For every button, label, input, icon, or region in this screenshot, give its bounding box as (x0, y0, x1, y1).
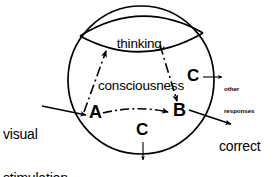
node-c-right-label: C (187, 67, 199, 85)
visual-stimulation-line2: stimulation (3, 171, 68, 177)
node-b-label: B (173, 101, 186, 120)
visual-stimulation-line1: visual (3, 127, 68, 142)
thinking-label-line1: thinking, (86, 37, 196, 51)
other-responses-bottom-label: other responses (125, 162, 156, 177)
correct-response-line1: correct (219, 139, 275, 154)
node-c-bottom-label: C (136, 121, 148, 139)
visual-stimulation-label: visual stimulation (3, 98, 68, 177)
diagram-canvas: thinking, consciousness A B C C visual s… (0, 0, 278, 177)
thinking-label-line2: consciousness (86, 79, 196, 93)
other-responses-right-line2: responses (224, 107, 255, 114)
other-responses-right-line1: other (224, 85, 255, 92)
other-responses-right-label: other responses (224, 70, 255, 129)
node-a-label: A (89, 103, 102, 122)
